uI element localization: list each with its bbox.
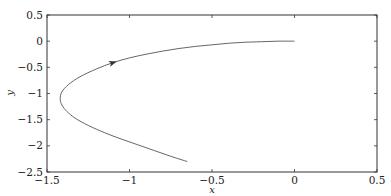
y-tick-label: −0.5 [18, 61, 44, 73]
x-axis-label: x [209, 184, 215, 195]
x-tick-label: 0.5 [369, 174, 386, 186]
y-tick-label: −2 [28, 139, 43, 151]
x-tick-label: −1 [122, 174, 137, 186]
y-tick-label: −1 [28, 87, 43, 99]
x-tick-label: 0 [291, 174, 298, 186]
y-tick-label: 0.5 [26, 9, 43, 21]
y-tick-label: −1.5 [18, 113, 44, 125]
y-tick-label: −2.5 [18, 166, 44, 178]
phase-plot: −1.5−1−0.500.5 0.50−0.5−1−1.5−2−2.5 x y [0, 0, 391, 196]
plot-area [47, 15, 377, 172]
y-tick-label: 0 [36, 35, 43, 47]
y-axis-label: y [4, 90, 15, 97]
